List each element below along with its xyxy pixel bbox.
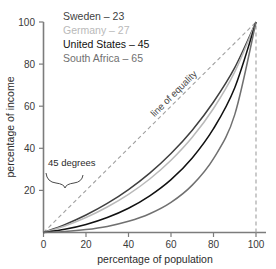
x-tick-label-20: 20 bbox=[80, 239, 92, 250]
forty-five-degrees-label: 45 degrees bbox=[48, 157, 96, 168]
legend-item-sweden: Sweden – 23 bbox=[63, 10, 124, 22]
legend-item-united-states: United States – 45 bbox=[63, 38, 150, 50]
y-axis-title: percentage of income bbox=[4, 76, 16, 177]
chart-canvas: 0 20 40 60 80 100 20 40 60 80 100 percen… bbox=[0, 0, 276, 269]
x-tick-label-100: 100 bbox=[248, 239, 265, 250]
y-tick-label-40: 40 bbox=[24, 143, 36, 154]
legend-item-south-africa: South Africa – 65 bbox=[63, 52, 143, 64]
y-tick-label-80: 80 bbox=[24, 59, 36, 70]
y-tick-label-20: 20 bbox=[24, 185, 36, 196]
x-tick-label-40: 40 bbox=[123, 239, 135, 250]
x-tick-label-80: 80 bbox=[208, 239, 220, 250]
y-tick-label-100: 100 bbox=[18, 17, 35, 28]
lorenz-curve-chart: 0 20 40 60 80 100 20 40 60 80 100 percen… bbox=[0, 0, 276, 269]
y-tick-label-60: 60 bbox=[24, 101, 36, 112]
x-axis-title: percentage of population bbox=[97, 253, 213, 265]
x-tick-label-0: 0 bbox=[41, 239, 47, 250]
legend-item-germany: Germany – 27 bbox=[63, 24, 130, 36]
x-tick-label-60: 60 bbox=[165, 239, 177, 250]
